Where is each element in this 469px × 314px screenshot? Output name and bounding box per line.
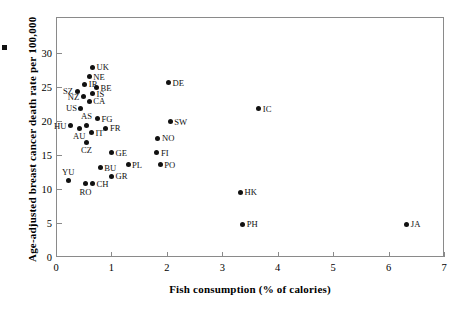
data-point-label: US (66, 104, 77, 113)
y-tick (56, 189, 62, 190)
x-tick (56, 252, 57, 257)
x-tick-label: 5 (331, 262, 336, 273)
data-point-label: NZ (68, 92, 79, 101)
x-tick (278, 252, 279, 257)
x-tick-label: 2 (164, 262, 169, 273)
y-tick-label: 25 (36, 82, 52, 93)
data-point-label: JA (411, 220, 421, 229)
x-tick-label: 4 (275, 262, 280, 273)
x-tick-label: 1 (109, 262, 114, 273)
data-point-label: PL (132, 160, 142, 169)
data-point-label: FG (102, 115, 113, 124)
data-point-label: IC (263, 104, 272, 113)
data-point (158, 162, 163, 167)
data-point-label: HK (245, 188, 257, 197)
y-tick (56, 155, 62, 156)
data-point (126, 162, 131, 167)
data-point-label: FI (161, 149, 169, 158)
data-point (84, 140, 89, 145)
data-point (84, 123, 89, 128)
data-point-label: GE (115, 149, 126, 158)
data-point-label: DE (173, 79, 184, 88)
y-tick (56, 53, 62, 54)
data-point-label: IT (95, 128, 103, 137)
data-point (109, 174, 114, 179)
x-tick (333, 252, 334, 257)
data-point (90, 65, 95, 70)
y-tick-label: 5 (36, 218, 52, 229)
y-tick-label: 15 (36, 150, 52, 161)
data-point-label: CH (97, 179, 109, 188)
y-tick-label: 30 (36, 48, 52, 59)
x-tick-label: 7 (441, 262, 446, 273)
y-tick-label: 10 (36, 184, 52, 195)
y-tick-label: 20 (36, 116, 52, 127)
data-point-label: PO (164, 160, 175, 169)
data-point-label: AS (81, 112, 92, 121)
data-point-label: HU (54, 121, 66, 130)
y-tick-label: 0 (36, 252, 52, 263)
edge-artifact-mark (2, 45, 7, 50)
x-tick (444, 252, 445, 257)
y-tick (56, 87, 62, 88)
data-point-label: GR (115, 172, 127, 181)
y-axis-title: Age-adjusted breast cancer death rate pe… (26, 17, 38, 262)
data-point (81, 94, 86, 99)
data-point-label: UK (97, 63, 109, 72)
data-point-label: RO (79, 188, 91, 197)
data-point (83, 181, 88, 186)
data-point (77, 126, 82, 131)
x-axis-title: Fish consumption (% of calories) (169, 283, 331, 295)
data-point (89, 130, 94, 135)
x-tick-label: 3 (220, 262, 225, 273)
y-tick (56, 223, 62, 224)
data-point (168, 119, 173, 124)
data-point (87, 99, 92, 104)
data-point-label: NO (162, 134, 174, 143)
scatter-plot-figure: 01234567051015202530 UKNEIRBESZISNZCAUSF… (0, 0, 469, 314)
x-tick-label: 0 (53, 262, 58, 273)
data-point-label: YU (62, 168, 74, 177)
x-tick (111, 252, 112, 257)
data-point-label: CZ (81, 146, 92, 155)
data-point-label: SW (174, 117, 187, 126)
x-tick (167, 252, 168, 257)
data-point-label: FR (110, 124, 121, 133)
x-tick-label: 6 (386, 262, 391, 273)
data-point-label: PH (247, 220, 258, 229)
data-point (238, 190, 243, 195)
data-point-label: AU (73, 132, 85, 141)
x-tick (222, 252, 223, 257)
data-point-label: CA (93, 97, 105, 106)
x-tick (389, 252, 390, 257)
